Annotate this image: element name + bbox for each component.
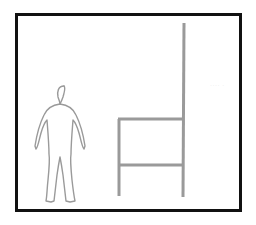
chair-back-post [183, 23, 184, 197]
human-figure [35, 86, 85, 202]
bleed-through-text: ···· · [210, 82, 225, 88]
chair [118, 23, 184, 197]
diagram-canvas [0, 0, 256, 225]
